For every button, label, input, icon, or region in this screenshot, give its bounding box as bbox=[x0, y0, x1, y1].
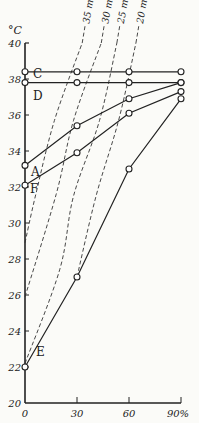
y-tick-label: 40 bbox=[7, 38, 21, 49]
series-lines bbox=[22, 69, 184, 370]
curve-label: 20 mm. bbox=[134, 0, 151, 25]
data-point-A bbox=[74, 123, 80, 129]
y-tick-label: 32 bbox=[8, 182, 21, 193]
y-tick-label: 24 bbox=[7, 326, 21, 337]
data-point-C bbox=[178, 69, 184, 75]
data-point-A bbox=[178, 80, 184, 86]
series-line-A bbox=[25, 83, 181, 166]
series-label-F: F bbox=[30, 182, 38, 196]
data-point-C bbox=[126, 69, 132, 75]
data-point-D bbox=[126, 80, 132, 86]
series-label-C: C bbox=[33, 67, 42, 81]
data-point-F bbox=[126, 110, 132, 116]
dashed-leader bbox=[117, 25, 120, 43]
x-tick-label: 90% bbox=[167, 408, 189, 419]
data-point-A bbox=[126, 96, 132, 102]
dashed-curve-20mm bbox=[77, 43, 136, 277]
chart: 20222426283032343638400306090% °C35 mm.3… bbox=[0, 0, 199, 423]
data-point-F bbox=[74, 150, 80, 156]
y-tick-label: 38 bbox=[8, 74, 21, 85]
y-tick-label: 22 bbox=[7, 362, 21, 373]
data-point-A bbox=[22, 162, 28, 168]
y-tick-label: 34 bbox=[8, 146, 21, 157]
y-tick-label: 26 bbox=[7, 290, 21, 301]
dashed-leader bbox=[82, 25, 85, 43]
y-tick-label: 28 bbox=[7, 254, 21, 265]
data-point-E bbox=[178, 96, 184, 102]
dashed-leader bbox=[136, 25, 139, 43]
series-label-D: D bbox=[33, 89, 43, 103]
data-point-C bbox=[22, 69, 28, 75]
y-tick-label: 36 bbox=[8, 110, 21, 121]
data-point-E bbox=[126, 166, 132, 172]
curve-label: 35 mm. bbox=[80, 0, 97, 24]
dashed-leader bbox=[101, 25, 104, 43]
data-point-F bbox=[22, 182, 28, 188]
curve-label: 30 mm. bbox=[99, 0, 116, 24]
x-tick-label: 60 bbox=[123, 408, 136, 419]
curve-label: 25 mm. bbox=[115, 0, 132, 25]
series-line-E bbox=[25, 99, 181, 367]
series-label-E: E bbox=[36, 345, 45, 359]
x-tick-label: 30 bbox=[71, 408, 84, 419]
data-point-D bbox=[22, 80, 28, 86]
y-tick-label: 20 bbox=[7, 398, 21, 409]
labels: °C35 mm.30 mm.25 mm.20 mm.CDAFE bbox=[8, 0, 151, 359]
x-tick-label: 0 bbox=[22, 408, 29, 419]
data-point-D bbox=[74, 80, 80, 86]
data-point-C bbox=[74, 69, 80, 75]
y-tick-label: 30 bbox=[8, 218, 21, 229]
data-point-E bbox=[22, 364, 28, 370]
data-point-E bbox=[74, 274, 80, 280]
data-point-F bbox=[178, 89, 184, 95]
series-label-A: A bbox=[30, 165, 40, 179]
y-unit-label: °C bbox=[8, 24, 23, 37]
